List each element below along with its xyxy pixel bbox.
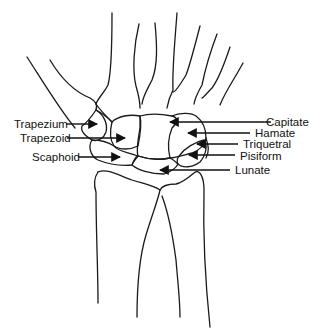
wrist-diagram: Trapezium Trapezoid Scaphoid Capitate Ha… [0,0,312,333]
radius-bone [95,172,98,303]
label-triquetral: Triquetral [243,138,291,150]
capitate-bone [137,114,176,159]
fourth-metacarpal [167,13,177,108]
label-trapezoid: Trapezoid [20,132,71,144]
label-scaphoid: Scaphoid [32,151,80,163]
label-lunate: Lunate [235,164,270,176]
second-metacarpal [96,13,112,104]
label-trapezium: Trapezium [14,118,68,130]
fifth-metacarpal [194,34,217,104]
third-metacarpal [134,24,140,108]
trapezoid-bone [96,110,112,122]
hamate-bone [170,113,206,158]
label-pisiform: Pisiform [240,150,282,162]
lunate-bone [132,156,178,174]
ulna-bone [160,172,210,327]
scaphoid-bone [90,140,138,165]
